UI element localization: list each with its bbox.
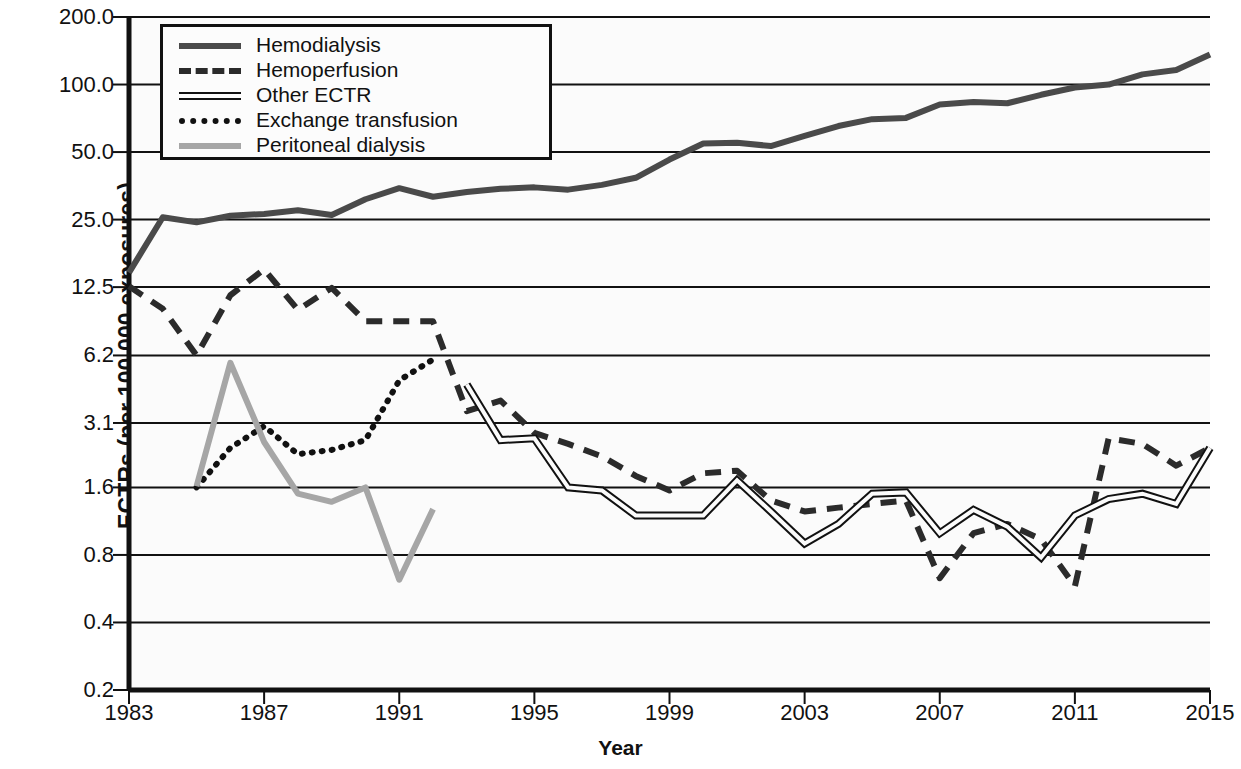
legend-swatch-hemodialysis: [177, 35, 243, 55]
chart-legend: Hemodialysis Hemoperfusion Other ECTR Ex…: [160, 24, 552, 160]
legend-swatch-hemoperfusion: [177, 60, 243, 80]
legend-swatch-peritoneal-dialysis: [177, 135, 243, 155]
legend-label-hemodialysis: Hemodialysis: [256, 34, 381, 55]
legend-item-exchange-transfusion: Exchange transfusion: [177, 107, 549, 132]
legend-label-other-ectr: Other ECTR: [256, 84, 372, 105]
chart-figure: ECTRs (per 100,000 exposures) Year 200.0…: [0, 0, 1241, 769]
legend-item-other-ectr: Other ECTR: [177, 82, 549, 107]
legend-item-peritoneal-dialysis: Peritoneal dialysis: [177, 132, 549, 157]
legend-item-hemoperfusion: Hemoperfusion: [177, 57, 549, 82]
legend-label-hemoperfusion: Hemoperfusion: [256, 59, 398, 80]
legend-label-exchange-transfusion: Exchange transfusion: [256, 109, 458, 130]
legend-item-hemodialysis: Hemodialysis: [177, 32, 549, 57]
legend-swatch-other-ectr: [177, 85, 243, 105]
legend-label-peritoneal-dialysis: Peritoneal dialysis: [256, 134, 425, 155]
legend-swatch-exchange-transfusion: [177, 110, 243, 130]
